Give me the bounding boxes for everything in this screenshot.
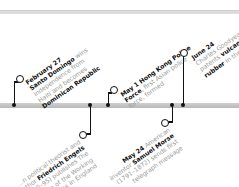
event-ring-icon	[16, 75, 24, 83]
top-rule	[0, 10, 239, 14]
event-ring-icon	[180, 49, 188, 57]
event-label: May 24 American inventor Samuel Morse (1…	[104, 126, 184, 187]
event-label: ...n political theorist and author Fried…	[13, 138, 98, 187]
connector-line	[183, 55, 185, 104]
connector-line	[90, 106, 92, 133]
timeline-axis	[0, 103, 239, 108]
event-label: June 24 Charles Goodyear patents vulcani…	[190, 19, 239, 79]
event-ring-icon	[110, 86, 118, 94]
event-ring-icon	[79, 131, 87, 139]
connector-line	[108, 93, 110, 104]
connector-line	[14, 82, 16, 104]
connector-line	[172, 106, 174, 121]
event-label: February 27 Santo Domingo wins independe…	[24, 40, 101, 109]
